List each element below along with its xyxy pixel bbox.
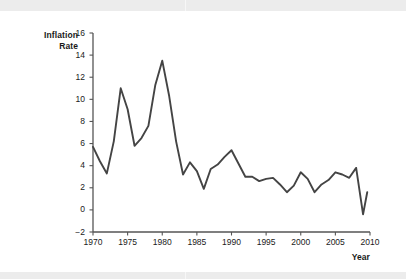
y-axis-tick-label: 4: [65, 161, 85, 170]
chart-screenshot: Inflation Rate Year −20246810121416 1970…: [0, 0, 406, 279]
y-axis-tick-label: 0: [65, 205, 85, 214]
inflation-rate-line-chart: Inflation Rate Year −20246810121416 1970…: [0, 11, 406, 272]
y-axis-tick-label: 14: [65, 51, 85, 60]
top-background-band: [0, 0, 406, 11]
plot-svg: [0, 11, 406, 272]
y-axis-tick-label: 12: [65, 73, 85, 82]
y-axis-tick-label: 6: [65, 139, 85, 148]
bottom-band-seam: [185, 272, 186, 279]
y-axis-tick-label: 10: [65, 95, 85, 104]
axis-lines: [93, 33, 370, 232]
top-band-seam: [185, 0, 186, 11]
y-axis-tick-label: 2: [65, 183, 85, 192]
x-axis-tick-label: 2010: [350, 238, 390, 247]
y-axis-tick-label: 16: [65, 29, 85, 38]
y-axis-tick-label: 8: [65, 117, 85, 126]
y-axis-tick-label: −2: [65, 228, 85, 237]
inflation-rate-line: [93, 61, 367, 215]
bottom-background-band: [0, 272, 406, 279]
